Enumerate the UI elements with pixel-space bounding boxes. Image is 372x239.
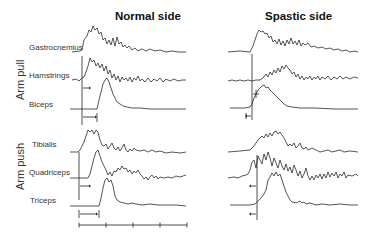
trace-normal-biceps <box>70 78 186 109</box>
trace-normal-tibialis <box>70 130 186 153</box>
muscle-label-triceps: Triceps <box>30 196 56 205</box>
normal-arm-pull-traces <box>70 26 186 125</box>
time-scale-bar <box>79 223 187 228</box>
muscle-label-tibialis: Tibialis <box>32 140 57 149</box>
trace-normal-gastrocnemius <box>72 26 186 52</box>
arrowhead-icon <box>249 185 251 188</box>
arrowhead-icon <box>96 213 98 216</box>
trace-normal-hamstrings <box>72 58 186 82</box>
muscle-label-gastrocnemius: Gastrocnemius <box>29 43 83 52</box>
arrowhead-icon <box>249 213 251 216</box>
arrowhead-icon <box>89 185 91 188</box>
trace-spastic-biceps <box>230 85 358 109</box>
title-spastic-side: Spastic side <box>265 10 332 22</box>
group-label-arm-pull: Arm pull <box>14 60 26 100</box>
normal-arm-push-traces <box>70 130 186 218</box>
emg-figure: Normal side Spastic side Arm pull Arm pu… <box>0 0 372 239</box>
spastic-arm-push-traces <box>228 131 358 220</box>
muscle-label-hamstrings: Hamstrings <box>29 71 69 80</box>
trace-spastic-hamstr-quadriceps <box>228 152 358 180</box>
trace-normal-quadriceps <box>70 150 186 180</box>
arrowhead-icon <box>89 87 91 90</box>
muscle-label-biceps: Biceps <box>29 100 53 109</box>
title-normal-side: Normal side <box>115 10 181 22</box>
trace-spastic-tibialis <box>228 131 358 152</box>
trace-spastic-gastrocnemius <box>228 30 358 52</box>
trace-normal-triceps <box>70 178 186 206</box>
group-label-arm-push: Arm push <box>14 143 26 190</box>
muscle-label-quadriceps: Quadriceps <box>29 168 70 177</box>
spastic-arm-pull-traces <box>228 30 358 120</box>
trace-spastic-hamstrings <box>228 65 358 81</box>
